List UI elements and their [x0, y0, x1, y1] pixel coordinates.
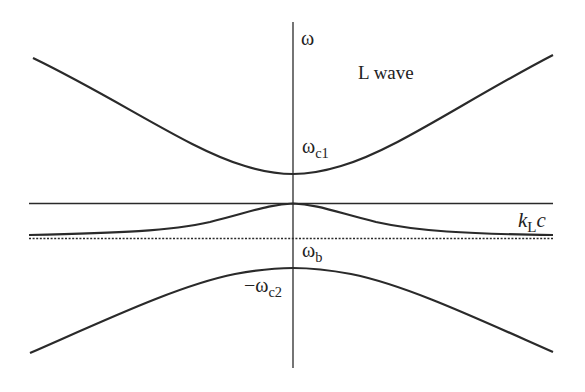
wave-label: L wave	[358, 63, 414, 82]
omega-axis-label: ω	[301, 28, 314, 48]
omega-c1-label: ωc1	[302, 136, 329, 160]
klc-sub: L	[527, 219, 536, 235]
minus-omega-c2-label: −ωc2	[244, 275, 282, 299]
omega-b-label: ωb	[302, 240, 322, 264]
klc-base: k	[518, 208, 527, 232]
diagram-canvas	[0, 0, 585, 392]
dispersion-diagram: ω L wave ωc1 kLc ωb −ωc2	[0, 0, 585, 392]
omega-c1-sub: c1	[315, 145, 329, 161]
lower-branch-curve	[30, 268, 553, 353]
omega-b-sub: b	[315, 249, 322, 265]
klc-tail: c	[537, 208, 546, 232]
omega-b-base: ω	[302, 239, 315, 261]
klc-label: kLc	[518, 210, 546, 235]
minus-omega-c2-sub: c2	[268, 284, 282, 300]
minus-omega-c2-base: −ω	[244, 274, 268, 296]
omega-c1-base: ω	[302, 135, 315, 157]
middle-branch-curve	[29, 204, 553, 236]
